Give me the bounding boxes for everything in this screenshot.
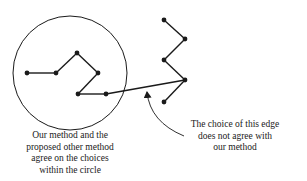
- left-caption-line: agree on the choices: [0, 153, 140, 165]
- left-caption-line: proposed other method: [0, 142, 140, 154]
- left-caption: Our method and the proposed other method…: [0, 130, 140, 176]
- graph-node: [25, 71, 30, 76]
- right-caption-line: The choice of this edge: [170, 119, 300, 131]
- graph-node: [183, 37, 188, 42]
- tree-edge: [164, 60, 185, 80]
- left-caption-line: Our method and the: [0, 130, 140, 142]
- tree-edge: [164, 20, 185, 39]
- tree-edge: [56, 53, 77, 73]
- graph-node: [54, 71, 59, 76]
- tree-edge: [78, 73, 98, 94]
- nodes-group: [25, 18, 188, 105]
- tree-edge: [77, 53, 98, 73]
- edges-group: [27, 20, 185, 102]
- graph-node: [183, 78, 188, 83]
- graph-node: [104, 92, 109, 97]
- right-caption-line: our method: [170, 142, 300, 154]
- graph-node: [96, 71, 101, 76]
- tree-edge: [164, 39, 185, 60]
- graph-node: [75, 51, 80, 56]
- right-caption: The choice of this edge does not agree w…: [170, 119, 300, 154]
- graph-node: [162, 100, 167, 105]
- left-caption-line: within the circle: [0, 165, 140, 177]
- graph-node: [162, 58, 167, 63]
- right-caption-line: does not agree with: [170, 131, 300, 143]
- graph-node: [162, 18, 167, 23]
- graph-node: [76, 92, 81, 97]
